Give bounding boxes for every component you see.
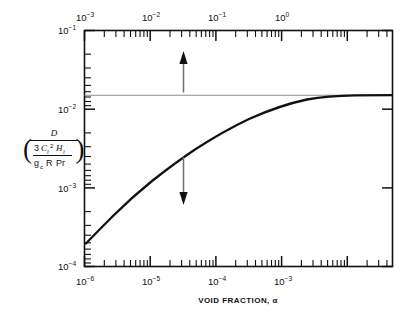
- top-tick-1-base: 10: [142, 12, 153, 23]
- log-log-chart: 10−3 10−2 10−1 100 10−6 10−5 10−4: [0, 0, 409, 321]
- y-tick-3-exp: −4: [69, 260, 77, 267]
- x-axis-title: VOID FRACTION, α: [198, 296, 278, 305]
- ylabel-paren-close: ): [76, 134, 85, 164]
- ylabel-den-Pr: Pr: [56, 158, 65, 168]
- bottom-tick-0-base: 10: [76, 276, 87, 287]
- bottom-tick-2-exp: −4: [219, 275, 227, 282]
- bottom-tick-3-exp: −3: [285, 275, 293, 282]
- ylabel-den-g: g: [34, 158, 39, 168]
- ylabel-numerator: D: [50, 128, 58, 138]
- ylabel-den-3: 3: [34, 143, 39, 153]
- bottom-tick-3-base: 10: [274, 276, 285, 287]
- top-tick-2-base: 10: [208, 12, 219, 23]
- y-tick-2-base: 10: [58, 183, 69, 194]
- bottom-tick-0-exp: −6: [87, 275, 95, 282]
- y-tick-1-exp: −2: [69, 103, 77, 110]
- ylabel-den-R: R: [46, 158, 53, 168]
- figure-container: 10−3 10−2 10−1 100 10−6 10−5 10−4: [0, 0, 409, 321]
- y-tick-1-base: 10: [58, 104, 69, 115]
- top-tick-1-exp: −2: [153, 11, 161, 18]
- top-tick-0-base: 10: [76, 12, 87, 23]
- y-tick-0-exp: −1: [69, 24, 77, 31]
- ylabel-paren-open: (: [23, 134, 32, 164]
- bottom-tick-1-base: 10: [142, 276, 153, 287]
- top-tick-2-exp: −1: [219, 11, 227, 18]
- top-tick-3-base: 10: [275, 12, 286, 23]
- ylabel-den-g-sub: c: [40, 164, 43, 170]
- top-tick-3-exp: 0: [286, 11, 290, 18]
- top-tick-0-exp: −3: [87, 11, 95, 18]
- ylabel-den-H: H: [55, 143, 63, 153]
- y-tick-2-exp: −3: [69, 182, 77, 189]
- bottom-tick-1-exp: −5: [153, 275, 161, 282]
- y-tick-3-base: 10: [58, 261, 69, 272]
- y-tick-0-base: 10: [58, 25, 69, 36]
- bottom-tick-2-base: 10: [208, 276, 219, 287]
